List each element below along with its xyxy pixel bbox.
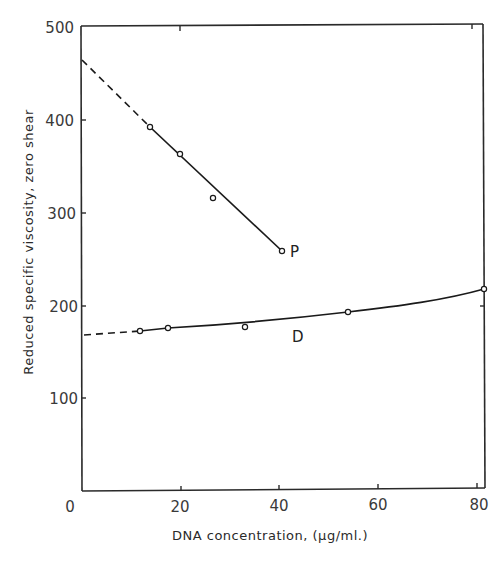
series-d	[84, 286, 487, 335]
x-tick-20: 20	[170, 498, 189, 516]
series-d-point	[137, 328, 142, 333]
plot-frame	[81, 24, 485, 491]
series-p-point	[147, 124, 152, 129]
y-axis-label: Reduced specific viscosity, zero shear	[21, 109, 36, 375]
x-tick-60: 60	[368, 496, 387, 514]
series-d-point	[165, 325, 170, 330]
viscosity-chart: 500 400 300 200 100 0 20 40 60 80 DNA co…	[0, 0, 503, 562]
x-axis-ticks	[180, 24, 477, 491]
series-d-fit-line	[140, 289, 484, 331]
series-p-point	[279, 248, 284, 253]
x-axis-label: DNA concentration, (μg/ml.)	[172, 528, 368, 543]
series-d-point	[242, 324, 247, 329]
series-p-extrapolation	[82, 60, 150, 127]
y-axis-ticks	[81, 120, 484, 398]
series-d-extrapolation	[84, 331, 140, 335]
y-tick-400: 400	[45, 112, 74, 130]
series-p-label: P	[290, 243, 299, 261]
x-tick-80: 80	[469, 496, 488, 514]
y-tick-labels: 500 400 300 200 100	[45, 19, 78, 408]
series-d-label: D	[292, 328, 304, 346]
series-p-point	[210, 195, 215, 200]
y-tick-100: 100	[49, 390, 78, 408]
y-tick-300: 300	[47, 205, 76, 223]
x-tick-40: 40	[269, 497, 288, 515]
series-d-point	[345, 309, 350, 314]
series-p-point	[177, 151, 182, 156]
y-tick-500: 500	[45, 19, 74, 37]
x-tick-0: 0	[65, 498, 75, 516]
series-d-point	[481, 286, 486, 291]
series-p-fit-line	[150, 127, 282, 251]
series-p	[82, 60, 285, 254]
y-tick-200: 200	[49, 298, 78, 316]
x-tick-labels: 0 20 40 60 80	[65, 496, 488, 516]
